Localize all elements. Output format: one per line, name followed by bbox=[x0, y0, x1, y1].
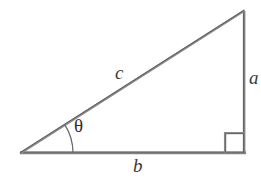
right-angle-marker-highlight bbox=[226, 134, 244, 152]
side-label-a: a bbox=[249, 68, 259, 87]
side-c-line-highlight bbox=[20, 10, 245, 153]
side-label-c: c bbox=[115, 63, 123, 82]
right-angle-marker bbox=[225, 133, 244, 153]
triangle-diagram: c a b θ bbox=[0, 0, 261, 180]
triangle-drawing bbox=[0, 0, 261, 180]
angle-label-theta: θ bbox=[74, 116, 83, 135]
side-c-line bbox=[20, 11, 245, 154]
side-label-b: b bbox=[133, 156, 143, 175]
angle-arc bbox=[65, 125, 73, 153]
